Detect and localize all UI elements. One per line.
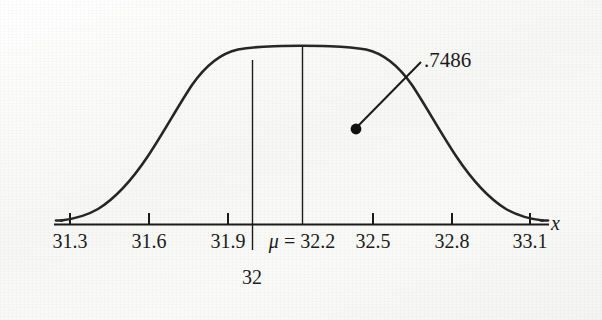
tick-label-31-3: 31.3 [53,230,88,253]
tick-label-32-5: 32.5 [356,230,391,253]
tick-label-33-1: 33.1 [513,230,548,253]
probability-dot [351,124,362,135]
mean-label: μ = 32.2 [269,230,335,253]
normal-curve-figure: .7486 x 31.3 31.6 31.9 32.5 32.8 33.1 μ … [0,0,602,320]
probability-annotation-label: .7486 [424,48,471,73]
distribution-plot [0,0,602,320]
mu-symbol: μ [269,230,279,252]
tick-label-31-9: 31.9 [211,230,246,253]
lower-bound-label: 32 [242,266,262,289]
axis-tick-marks [70,213,530,224]
probability-leader-line [357,62,421,127]
tick-label-31-6: 31.6 [132,230,167,253]
mean-equals-sign: = [279,230,300,252]
x-axis-variable-label: x [551,212,560,235]
tick-label-32-8: 32.8 [435,230,470,253]
mean-value: 32.2 [300,230,335,252]
